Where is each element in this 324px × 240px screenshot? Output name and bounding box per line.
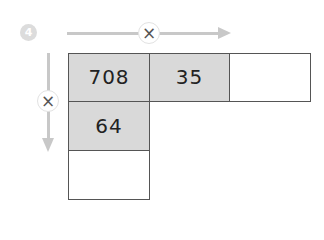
cell-column-1: 64 [68,101,150,152]
arrow-down-icon [42,138,54,152]
arrow-right-icon [218,27,231,39]
multiply-icon-horizontal: × [138,22,160,44]
answer-cell-column[interactable] [68,150,150,200]
problem-number-badge: 4 [20,24,37,41]
cell-row-2: 35 [149,53,231,102]
cell-row-1: 708 [68,53,150,102]
answer-cell-row[interactable] [229,53,311,102]
multiply-icon-vertical: × [37,90,59,112]
